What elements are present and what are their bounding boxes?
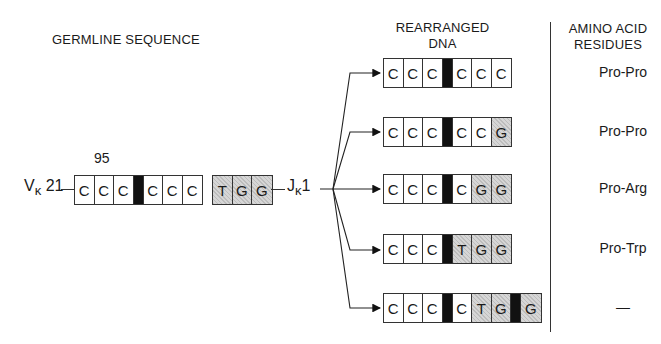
nucleotide-g: G [521, 294, 541, 322]
junction-marker [443, 59, 453, 87]
nucleotide-c: C [423, 59, 443, 87]
junction-marker [443, 175, 453, 203]
nucleotide-c: C [453, 59, 473, 87]
nucleotide-g: G [472, 235, 492, 263]
nucleotide-g: G [492, 175, 512, 203]
nucleotide-t: T [472, 294, 492, 322]
nucleotide-c: C [384, 118, 404, 146]
nucleotide-g: G [492, 235, 512, 263]
junction-marker [443, 235, 453, 263]
junction-marker [443, 294, 453, 322]
rearranged-sequence: CCCCTGG [383, 293, 542, 323]
nucleotide-c: C [423, 118, 443, 146]
rearranged-sequence: CCCCCG [383, 117, 512, 147]
nucleotide-c: C [404, 235, 424, 263]
amino-acid-residues: Pro-Arg [588, 180, 658, 196]
nucleotide-c: C [384, 175, 404, 203]
junction-marker [443, 118, 453, 146]
amino-acid-residues: Pro-Pro [588, 64, 658, 80]
nucleotide-c: C [404, 59, 424, 87]
nucleotide-c: C [423, 175, 443, 203]
nucleotide-c: C [472, 59, 492, 87]
nucleotide-g: G [472, 175, 492, 203]
amino-acid-residues: — [588, 299, 658, 315]
nucleotide-c: C [492, 59, 512, 87]
junction-marker [511, 294, 521, 322]
nucleotide-c: C [472, 118, 492, 146]
rearranged-sequence: CCCTGG [383, 234, 512, 264]
nucleotide-c: C [404, 175, 424, 203]
amino-acid-residues: Pro-Pro [588, 123, 658, 139]
nucleotide-c: C [384, 59, 404, 87]
nucleotide-t: T [453, 235, 473, 263]
nucleotide-g: G [492, 294, 512, 322]
nucleotide-g: G [492, 118, 512, 146]
nucleotide-c: C [384, 235, 404, 263]
nucleotide-c: C [453, 118, 473, 146]
nucleotide-c: C [384, 294, 404, 322]
nucleotide-c: C [453, 294, 473, 322]
nucleotide-c: C [404, 118, 424, 146]
nucleotide-c: C [404, 294, 424, 322]
branching-arrows [0, 0, 661, 344]
rearranged-sequence: CCCCCC [383, 58, 512, 88]
nucleotide-c: C [423, 294, 443, 322]
amino-acid-residues: Pro-Trp [588, 240, 658, 256]
nucleotide-c: C [453, 175, 473, 203]
nucleotide-c: C [423, 235, 443, 263]
rearranged-sequence: CCCCGG [383, 174, 512, 204]
